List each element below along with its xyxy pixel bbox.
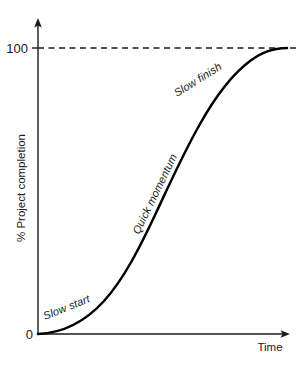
y-tick-label-100: 100 — [6, 41, 28, 56]
s-curve-chart: 100 0 % Project completion Time Slow sta… — [0, 0, 305, 365]
chart-canvas: 100 0 % Project completion Time Slow sta… — [0, 0, 305, 365]
annotation-quick-momentum: Quick momentum — [130, 152, 179, 236]
x-axis-title: Time — [257, 341, 282, 353]
y-axis-title: % Project completion — [15, 134, 27, 242]
y-tick-label-0: 0 — [26, 327, 33, 342]
annotation-slow-finish: Slow finish — [172, 60, 224, 99]
